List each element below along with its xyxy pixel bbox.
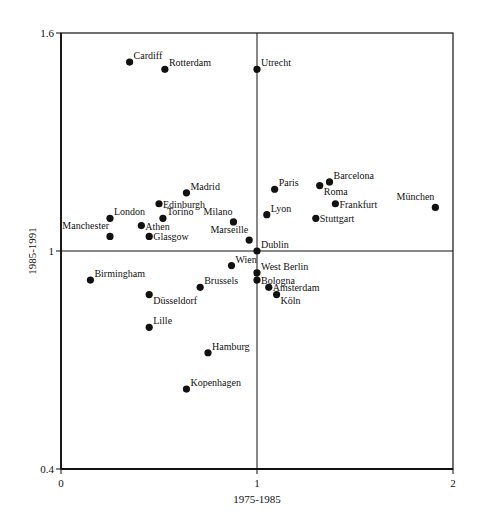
point-marker <box>316 182 323 189</box>
point-label: Amsterdam <box>273 282 320 293</box>
point-marker <box>138 222 145 229</box>
point-label: Kopenhagen <box>190 377 241 388</box>
point-marker <box>126 58 133 65</box>
point-marker <box>146 291 153 298</box>
point-marker <box>197 284 204 291</box>
point-label: Dublin <box>261 239 289 250</box>
point-label: Wien <box>236 254 257 265</box>
point-marker <box>106 233 113 240</box>
x-tick-label: 1 <box>254 477 260 489</box>
point-marker <box>204 349 211 356</box>
data-point: Stuttgart <box>312 213 354 224</box>
point-label: Marseille <box>210 224 248 235</box>
data-point: Hamburg <box>204 341 249 357</box>
x-tick-label: 0 <box>58 477 64 489</box>
point-label: Düsseldorf <box>153 295 198 306</box>
point-label: West Berlin <box>261 261 308 272</box>
point-label: Roma <box>324 186 348 197</box>
point-marker <box>271 186 278 193</box>
point-marker <box>332 200 339 207</box>
point-marker <box>246 237 253 244</box>
point-label: Glasgow <box>153 231 189 242</box>
data-point: Paris <box>271 177 299 193</box>
data-point: Barcelona <box>326 170 375 186</box>
data-point: Milano <box>204 206 237 226</box>
point-label: Madrid <box>190 181 219 192</box>
point-marker <box>432 204 439 211</box>
point-label: Lille <box>153 315 172 326</box>
point-label: Köln <box>281 295 301 306</box>
data-point: Wien <box>228 254 257 270</box>
data-point: Brussels <box>197 275 239 291</box>
point-marker <box>228 262 235 269</box>
data-point: Glasgow <box>146 231 190 242</box>
data-point: Rotterdam <box>161 57 211 73</box>
point-label: Paris <box>279 177 299 188</box>
point-marker <box>161 66 168 73</box>
point-label: Frankfurt <box>339 199 377 210</box>
point-marker <box>273 291 280 298</box>
data-point: London <box>106 206 145 222</box>
point-marker <box>155 200 162 207</box>
data-point: Marseille <box>210 224 252 244</box>
point-label: München <box>397 191 435 202</box>
point-label: Athen <box>145 221 169 232</box>
data-point: Lille <box>146 315 173 331</box>
point-label: London <box>114 206 145 217</box>
point-marker <box>312 215 319 222</box>
data-point: Athen <box>138 221 170 232</box>
scatter-chart: 0120.411.6 CardiffRotterdamUtrechtMadrid… <box>0 0 479 528</box>
data-point: Lyon <box>263 203 291 219</box>
point-marker <box>326 178 333 185</box>
point-marker <box>263 211 270 218</box>
data-point: Cardiff <box>126 50 163 66</box>
point-marker <box>183 189 190 196</box>
point-marker <box>265 284 272 291</box>
x-axis-title: 1975-1985 <box>233 493 281 505</box>
point-marker <box>146 324 153 331</box>
point-label: Stuttgart <box>320 213 355 224</box>
point-label: Rotterdam <box>169 57 211 68</box>
point-label: Brussels <box>204 275 238 286</box>
point-label: Torino <box>167 206 194 217</box>
point-label: Hamburg <box>212 341 250 352</box>
point-label: Barcelona <box>334 170 375 181</box>
point-marker <box>87 276 94 283</box>
data-points: CardiffRotterdamUtrechtMadridEdinburghLo… <box>62 50 439 393</box>
y-axis-title: 1985-1991 <box>26 227 38 275</box>
point-marker <box>253 66 260 73</box>
point-marker <box>253 269 260 276</box>
point-label: Birmingham <box>94 268 145 279</box>
point-label: Utrecht <box>261 57 291 68</box>
data-point: Birmingham <box>87 268 145 284</box>
point-label: Milano <box>204 206 233 217</box>
point-label: Manchester <box>62 220 109 231</box>
data-point: Madrid <box>183 181 220 197</box>
data-point: Amsterdam <box>265 282 319 293</box>
point-marker <box>146 233 153 240</box>
data-point: West Berlin <box>253 261 308 277</box>
point-marker <box>183 385 190 392</box>
y-tick-label: 1 <box>49 245 55 257</box>
data-point: Kopenhagen <box>183 377 241 393</box>
y-tick-label: 1.6 <box>40 27 54 39</box>
data-point: München <box>397 191 439 211</box>
point-label: Lyon <box>271 203 292 214</box>
data-point: Utrecht <box>253 57 291 73</box>
data-point: Düsseldorf <box>146 291 198 306</box>
data-point: Dublin <box>253 239 288 255</box>
point-label: Cardiff <box>134 50 163 61</box>
data-point: Frankfurt <box>332 199 378 210</box>
data-point: Manchester <box>62 220 113 240</box>
y-tick-label: 0.4 <box>40 463 54 475</box>
x-tick-label: 2 <box>450 477 456 489</box>
point-marker <box>253 276 260 283</box>
